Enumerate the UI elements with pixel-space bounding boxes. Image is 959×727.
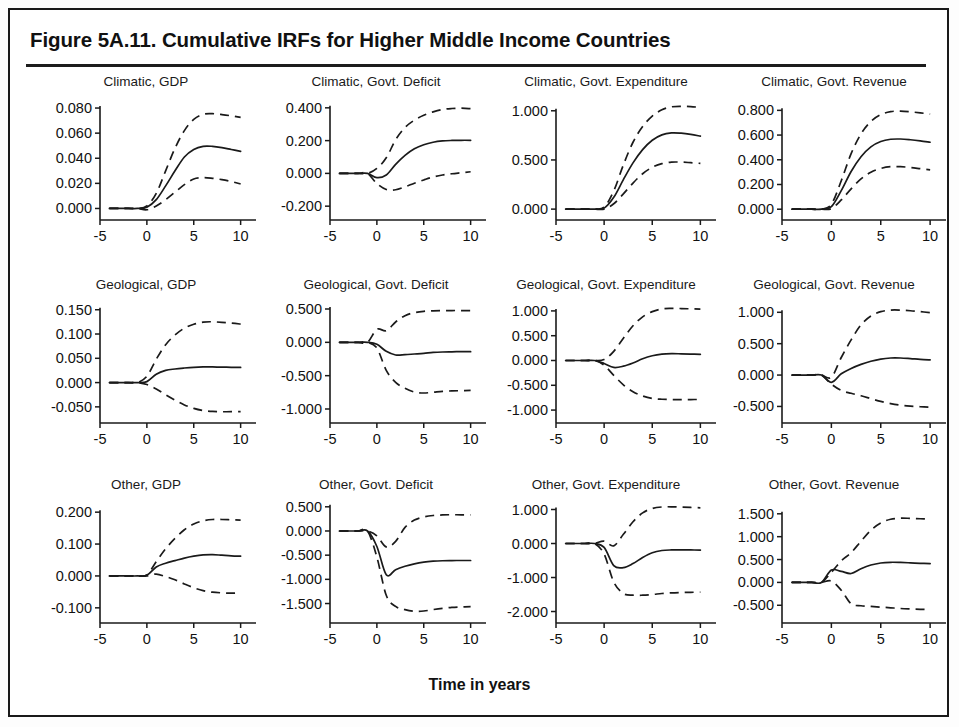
panel-geological-govt-expenditure: Geological, Govt. Expenditure-1.000-0.50…: [492, 277, 720, 462]
y-tick-label: 0.200: [286, 133, 322, 149]
irf-curve-lower: [339, 529, 470, 611]
x-tick-label: 10: [463, 431, 479, 447]
y-tick-label: 0.000: [56, 200, 92, 216]
irf-curve-mean: [566, 543, 701, 568]
plot-area: [330, 301, 494, 435]
y-tick-label: 1.000: [512, 103, 548, 119]
x-tick-label: 10: [233, 431, 249, 447]
x-tick-label: 0: [143, 228, 151, 244]
x-tick-label: 10: [463, 228, 479, 244]
panel-geological-govt-deficit: Geological, Govt. Deficit-1.000-0.5000.0…: [262, 277, 490, 462]
x-axis-tick-labels: -50510: [330, 631, 480, 651]
irf-curve-mean: [339, 342, 470, 355]
y-tick-label: 0.000: [738, 201, 774, 217]
y-axis-tick-labels: 0.0000.0200.0400.0600.080: [32, 98, 92, 216]
irf-curve-upper: [566, 308, 701, 360]
x-axis-tick-labels: -50510: [100, 631, 250, 651]
panel-title: Other, Govt. Expenditure: [492, 477, 720, 492]
y-tick-label: 1.500: [738, 506, 774, 522]
x-tick-label: -5: [776, 431, 789, 447]
x-tick-label: 10: [692, 631, 708, 647]
irf-curve-lower: [109, 574, 240, 593]
irf-curve-mean: [566, 133, 701, 209]
y-tick-label: 0.000: [286, 523, 322, 539]
panel-title: Climatic, Govt. Expenditure: [492, 74, 720, 89]
y-tick-label: 1.000: [738, 529, 774, 545]
y-tick-label: -1.500: [281, 596, 322, 612]
plot-area: [556, 98, 724, 232]
x-tick-label: 5: [877, 431, 885, 447]
y-axis-tick-labels: -0.5000.0000.5001.000: [718, 301, 774, 419]
panel-climatic-govt-revenue: Climatic, Govt. Revenue0.0000.2000.4000.…: [718, 74, 950, 259]
y-tick-label: 1.000: [738, 304, 774, 320]
panel-grid: Climatic, GDP0.0000.0200.0400.0600.080-5…: [10, 74, 949, 664]
y-tick-label: 0.500: [286, 301, 322, 317]
y-tick-label: -0.500: [733, 398, 774, 414]
y-tick-label: 0.150: [56, 302, 92, 318]
irf-curve-upper: [109, 519, 240, 576]
y-tick-label: 0.400: [738, 152, 774, 168]
x-axis-tick-labels: -50510: [330, 431, 480, 451]
y-tick-label: -0.500: [281, 547, 322, 563]
irf-curve-lower: [566, 162, 701, 210]
y-tick-label: 0.060: [56, 125, 92, 141]
plot-area: [556, 301, 724, 435]
y-axis-tick-labels: -1.000-0.5000.0000.500: [262, 301, 322, 419]
x-tick-label: 0: [143, 631, 151, 647]
irf-curve-mean: [339, 530, 470, 576]
x-tick-label: -5: [94, 228, 107, 244]
y-tick-label: 0.100: [56, 326, 92, 342]
y-tick-label: -1.000: [507, 402, 548, 418]
y-tick-label: -1.000: [281, 571, 322, 587]
y-tick-label: 0.000: [512, 536, 548, 552]
x-tick-label: 5: [648, 431, 656, 447]
irf-curve-lower: [339, 342, 470, 393]
x-tick-label: -5: [324, 631, 337, 647]
y-axis-tick-labels: -0.5000.0000.5001.0001.500: [718, 501, 774, 619]
irf-curve-lower: [339, 172, 470, 190]
x-tick-label: -5: [776, 631, 789, 647]
y-tick-label: -0.500: [507, 377, 548, 393]
x-tick-label: 10: [692, 228, 708, 244]
y-tick-label: 0.800: [738, 102, 774, 118]
panel-title: Other, GDP: [32, 477, 260, 492]
x-tick-label: 5: [190, 228, 198, 244]
irf-curve-upper: [792, 111, 930, 209]
x-tick-label: -5: [776, 228, 789, 244]
y-tick-label: 0.000: [512, 201, 548, 217]
y-tick-label: 0.000: [286, 334, 322, 350]
x-axis-tick-labels: -50510: [556, 228, 710, 248]
x-tick-label: 5: [420, 631, 428, 647]
y-axis-tick-labels: -0.0500.0000.0500.1000.150: [32, 301, 92, 419]
y-tick-label: -2.000: [507, 604, 548, 620]
irf-curve-lower: [109, 178, 240, 210]
irf-curve-mean: [792, 139, 930, 209]
y-tick-label: 0.200: [738, 176, 774, 192]
x-tick-label: 10: [692, 431, 708, 447]
figure-title: Figure 5A.11. Cumulative IRFs for Higher…: [30, 28, 850, 56]
irf-curve-mean: [792, 358, 930, 382]
panel-climatic-govt-expenditure: Climatic, Govt. Expenditure0.0000.5001.0…: [492, 74, 720, 259]
panel-other-gdp: Other, GDP-0.1000.0000.1000.200-50510: [32, 477, 260, 662]
y-tick-label: 0.000: [286, 165, 322, 181]
x-tick-label: 10: [233, 228, 249, 244]
y-tick-label: 0.400: [286, 100, 322, 116]
plot-area: [782, 98, 954, 232]
y-tick-label: 0.500: [738, 552, 774, 568]
x-tick-label: -5: [94, 631, 107, 647]
irf-curve-upper: [566, 106, 701, 209]
irf-curve-upper: [566, 507, 701, 546]
y-axis-tick-labels: -0.2000.0000.2000.400: [262, 98, 322, 216]
y-tick-label: 0.040: [56, 150, 92, 166]
irf-curve-upper: [792, 310, 930, 378]
y-tick-label: 0.080: [56, 100, 92, 116]
y-tick-label: 0.500: [286, 499, 322, 515]
x-tick-label: 0: [373, 228, 381, 244]
y-tick-label: 0.050: [56, 350, 92, 366]
y-axis-tick-labels: -0.1000.0000.1000.200: [32, 501, 92, 619]
irf-curve-lower: [566, 360, 701, 399]
x-tick-label: 0: [600, 228, 608, 244]
x-tick-label: -5: [550, 228, 563, 244]
y-tick-label: 1.000: [512, 502, 548, 518]
panel-other-govt-revenue: Other, Govt. Revenue-0.5000.0000.5001.00…: [718, 477, 950, 662]
